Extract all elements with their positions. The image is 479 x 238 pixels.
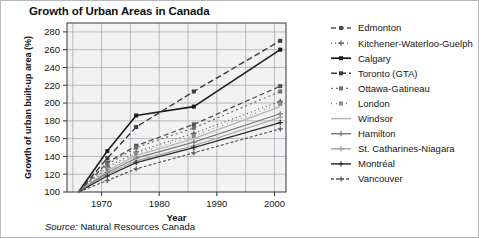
y-axis-tick-label: 280	[44, 26, 60, 37]
y-axis-tick-label: 160	[44, 133, 60, 144]
legend-label: Calgary	[358, 53, 391, 64]
x-axis-tick-label: 2000	[264, 198, 285, 209]
data-point	[105, 149, 109, 153]
x-axis-tick-label: 1990	[206, 198, 227, 209]
legend-item-kitchener-waterloo-guelph[interactable]: Kitchener-Waterloo-Guelph	[331, 38, 473, 49]
figure-container: Growth of Urban Areas in Canada 10012014…	[0, 0, 479, 238]
x-axis-tick-label: 1980	[149, 198, 170, 209]
legend-label: Montréal	[358, 158, 395, 169]
data-point	[105, 156, 109, 160]
legend-marker	[339, 26, 343, 30]
legend-label: Edmonton	[358, 22, 401, 33]
data-point	[134, 114, 138, 118]
legend-label: Hamilton	[358, 128, 396, 139]
legend-label: Toronto (GTA)	[358, 68, 417, 79]
legend-marker	[339, 56, 343, 60]
y-axis-tick-label: 140	[44, 151, 60, 162]
y-axis-tick-label: 180	[44, 115, 60, 126]
y-axis-title: Growth of urban built-up area (%)	[23, 36, 33, 179]
legend-marker	[338, 41, 343, 46]
legend-item-vancouver[interactable]: Vancouver	[331, 173, 403, 184]
line-chart: 1001201401601802002202402602801970198019…	[1, 1, 479, 238]
legend-label: St. Catharines-Niagara	[358, 143, 455, 154]
source-note: Source: Natural Resources Canada	[45, 221, 195, 232]
data-point	[192, 134, 196, 138]
legend-marker	[338, 146, 343, 151]
legend-marker	[339, 86, 343, 90]
legend-marker	[339, 102, 343, 106]
data-point	[278, 89, 282, 93]
legend-marker	[338, 161, 343, 166]
legend-item-windsor[interactable]: Windsor	[331, 113, 393, 124]
data-point	[278, 102, 282, 106]
legend-label: Windsor	[358, 113, 393, 124]
legend-item-hamilton[interactable]: Hamilton	[331, 128, 396, 139]
y-axis-tick-label: 200	[44, 97, 60, 108]
legend-marker	[338, 176, 343, 181]
data-point	[278, 48, 282, 52]
data-point	[278, 84, 282, 88]
data-point	[192, 126, 196, 130]
source-text: Natural Resources Canada	[80, 221, 195, 232]
legend-item-calgary[interactable]: Calgary	[331, 53, 391, 64]
legend-marker	[339, 71, 343, 75]
data-point	[134, 146, 138, 150]
legend-item-montr-al[interactable]: Montréal	[331, 158, 395, 169]
legend-label: Kitchener-Waterloo-Guelph	[358, 38, 473, 49]
legend-item-london[interactable]: London	[331, 98, 390, 109]
data-point	[105, 162, 109, 166]
data-point	[278, 39, 282, 43]
data-point	[192, 122, 196, 126]
legend-item-ottawa-gatineau[interactable]: Ottawa-Gatineau	[331, 83, 430, 94]
legend-item-st-catharines-niagara[interactable]: St. Catharines-Niagara	[331, 143, 455, 154]
data-point	[134, 125, 138, 129]
plot-background	[67, 23, 286, 192]
legend-label: London	[358, 98, 390, 109]
y-axis-tick-label: 100	[44, 186, 60, 197]
legend-label: Ottawa-Gatineau	[358, 83, 430, 94]
data-point	[192, 89, 196, 93]
y-axis-tick-label: 260	[44, 44, 60, 55]
legend-marker	[338, 131, 343, 136]
data-point	[192, 105, 196, 109]
legend-item-edmonton[interactable]: Edmonton	[331, 22, 401, 33]
legend-label: Vancouver	[358, 173, 403, 184]
source-prefix: Source:	[45, 221, 78, 232]
y-axis-tick-label: 120	[44, 169, 60, 180]
y-axis-tick-label: 220	[44, 80, 60, 91]
legend-item-toronto-gta[interactable]: Toronto (GTA)	[331, 68, 417, 79]
y-axis-tick-label: 240	[44, 62, 60, 73]
x-axis-tick-label: 1970	[91, 198, 112, 209]
